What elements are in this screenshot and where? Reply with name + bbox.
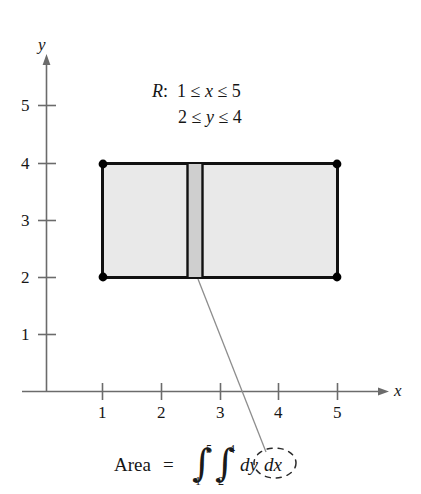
differential-dx: dx bbox=[264, 455, 282, 474]
y-tick-label-4: 4 bbox=[21, 155, 30, 172]
outer-integral-lower-limit: 1 bbox=[195, 474, 201, 489]
y-tick-label-2: 2 bbox=[21, 269, 30, 286]
double-integral-area-diagram bbox=[0, 0, 421, 494]
inner-integral: ∫ 4 2 bbox=[215, 444, 241, 488]
region-definition-line-1: R: 1 ≤ x ≤ 5 bbox=[152, 82, 241, 100]
region-definition-line-2: 2 ≤ y ≤ 4 bbox=[178, 108, 242, 126]
y-tick-label-5: 5 bbox=[21, 97, 30, 114]
region-y-lower: 2 ≤ bbox=[178, 107, 206, 127]
region-rectangle bbox=[103, 164, 338, 278]
region-var-y: y bbox=[206, 107, 214, 127]
corner-marker-bottom-right bbox=[333, 273, 342, 282]
outer-integral-upper-limit: 5 bbox=[206, 442, 212, 457]
differential-dy: dy bbox=[240, 455, 258, 474]
x-tick-label-3: 3 bbox=[216, 404, 225, 421]
corner-marker-bottom-left bbox=[99, 273, 108, 282]
x-tick-label-4: 4 bbox=[274, 404, 283, 421]
corner-marker-top-right bbox=[333, 160, 342, 169]
region-y-bounds: ≤ 4 bbox=[214, 107, 242, 127]
y-axis-label: y bbox=[38, 36, 46, 53]
equals-sign: = bbox=[163, 455, 174, 474]
inner-integral-lower-limit: 2 bbox=[218, 474, 224, 489]
region-colon: : 1 ≤ bbox=[163, 81, 205, 101]
area-label: Area bbox=[114, 455, 151, 474]
region-var-x: x bbox=[205, 81, 213, 101]
x-tick-label-1: 1 bbox=[98, 404, 107, 421]
y-tick-label-1: 1 bbox=[21, 326, 30, 343]
region-x-bounds: ≤ 5 bbox=[213, 81, 241, 101]
region-rectangle-group bbox=[99, 160, 342, 282]
corner-marker-bottom-left-top bbox=[99, 160, 108, 169]
x-axis-label: x bbox=[394, 382, 402, 399]
x-tick-label-5: 5 bbox=[333, 404, 342, 421]
region-symbol: R bbox=[152, 81, 163, 101]
inner-integral-upper-limit: 4 bbox=[229, 442, 235, 457]
y-tick-label-3: 3 bbox=[21, 212, 30, 229]
x-tick-label-2: 2 bbox=[157, 404, 166, 421]
representative-strip-dx bbox=[188, 164, 203, 277]
